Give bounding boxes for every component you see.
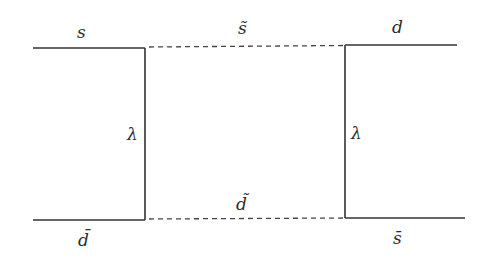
label-lambda-right: λ (350, 123, 362, 143)
feynman-box-diagram: s s̃ d λ λ d̄ d̃ s̄ (0, 0, 488, 265)
label-s-bar: s̄ (393, 228, 402, 248)
label-lambda-left: λ (126, 124, 138, 144)
label-s: s (77, 22, 86, 42)
label-d: d (392, 17, 403, 37)
s-squark-propagator (149, 46, 345, 48)
label-d-tilde: d̃ (236, 193, 250, 214)
label-d-bar: d̄ (78, 228, 91, 250)
d-squark-propagator (149, 218, 345, 219)
label-s-tilde: s̃ (238, 18, 248, 38)
